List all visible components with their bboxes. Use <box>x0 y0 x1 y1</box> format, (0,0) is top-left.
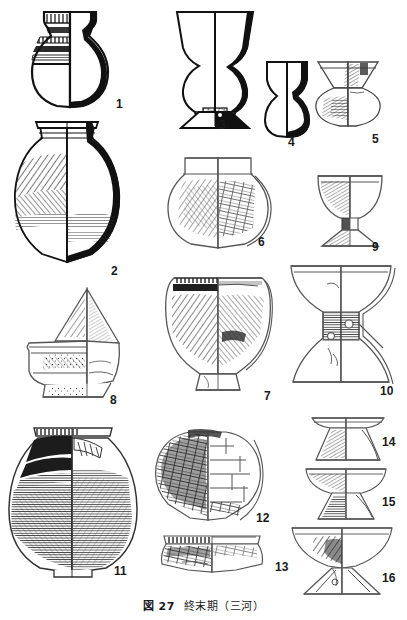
item-number-1: 1 <box>116 98 123 110</box>
vessel-2-body <box>15 122 120 263</box>
item-number-4: 4 <box>288 136 295 148</box>
item-number-16: 16 <box>382 572 395 584</box>
vessel-9 <box>312 168 388 250</box>
vessel-2 <box>6 118 128 270</box>
vessel-1-body <box>32 12 108 108</box>
vessel-3 <box>165 8 265 130</box>
vessel-16-body <box>292 528 392 594</box>
vessel-16 <box>284 522 402 598</box>
item-number-2: 2 <box>111 265 118 277</box>
item-number-15: 15 <box>382 496 395 508</box>
vessel-6-body <box>168 158 271 248</box>
vessel-11-body <box>9 428 137 577</box>
vessel-15 <box>296 463 396 525</box>
item-number-10: 10 <box>380 385 393 397</box>
item-number-12: 12 <box>256 512 269 524</box>
item-number-11: 11 <box>114 565 127 577</box>
vessel-5-body <box>316 62 380 126</box>
item-number-9: 9 <box>372 241 379 253</box>
vessel-7-body <box>166 278 273 390</box>
vessel-9-body <box>318 176 382 246</box>
figure-caption-title: 終末期 <box>184 600 219 613</box>
item-number-13: 13 <box>275 561 288 573</box>
vessel-8 <box>15 285 125 403</box>
figure-plate: 1 <box>0 0 407 620</box>
item-number-3: 3 <box>219 119 226 131</box>
vessel-11 <box>4 420 138 580</box>
vessel-14-body <box>312 418 384 460</box>
vessel-6 <box>163 152 273 252</box>
vessel-8-body <box>27 289 119 397</box>
figure-caption-region: （三河） <box>218 600 264 613</box>
vessel-10-body <box>291 266 395 384</box>
item-number-6: 6 <box>258 236 265 248</box>
vessel-12 <box>150 428 266 528</box>
item-number-7: 7 <box>264 390 271 402</box>
vessel-13-body <box>162 536 263 572</box>
vessel-7 <box>160 272 276 394</box>
vessel-12-body <box>156 429 263 520</box>
vessel-5 <box>308 58 388 138</box>
vessel-10 <box>283 262 403 390</box>
vessel-4-body <box>265 62 310 138</box>
figure-caption: 図 27終末期（三河） <box>0 597 407 613</box>
vessel-3-body <box>177 12 253 128</box>
vessel-1 <box>10 6 130 114</box>
figure-caption-label: 図 27 <box>143 600 175 613</box>
item-number-14: 14 <box>382 436 395 448</box>
item-number-5: 5 <box>372 133 379 145</box>
vessel-15-body <box>306 469 386 519</box>
item-number-8: 8 <box>110 394 117 406</box>
vessel-13 <box>152 528 272 576</box>
